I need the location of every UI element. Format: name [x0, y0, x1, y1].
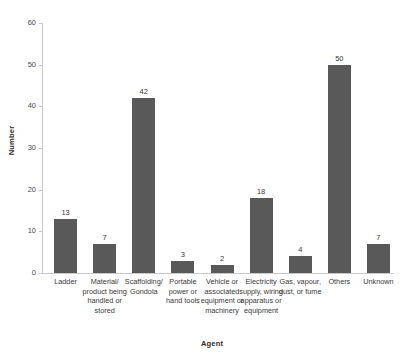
x-axis-title: Agent: [42, 339, 382, 348]
y-tick-mark: [39, 231, 42, 232]
bar: [250, 198, 273, 273]
bar: [328, 65, 351, 273]
bar: [289, 256, 312, 273]
y-tick-label-20: 20: [8, 185, 36, 195]
y-tick-label-50: 50: [8, 60, 36, 70]
bar-value-label: 7: [85, 233, 125, 242]
y-tick-mark: [39, 190, 42, 191]
y-tick-label-30: 30: [8, 143, 36, 153]
bar-value-label: 7: [358, 233, 398, 242]
y-tick-label-40: 40: [8, 101, 36, 111]
bar: [211, 265, 234, 273]
y-tick-mark: [39, 65, 42, 66]
bar-value-label: 50: [319, 54, 359, 63]
y-tick-mark: [39, 23, 42, 24]
y-tick-label-0: 0: [8, 268, 36, 278]
bar: [132, 98, 155, 273]
bar-value-label: 3: [163, 250, 203, 259]
y-tick-mark: [39, 148, 42, 149]
plot-area: 0102030405060 1374232184507: [42, 23, 394, 273]
y-tick-label-60: 60: [8, 18, 36, 28]
x-axis-line: [42, 273, 394, 274]
bar: [54, 219, 77, 273]
y-axis-line: [42, 23, 43, 273]
bar-value-label: 42: [124, 87, 164, 96]
bar-value-label: 4: [280, 245, 320, 254]
bar-chart: Number 0102030405060 1374232184507 Ladde…: [0, 0, 411, 364]
y-tick-mark: [39, 106, 42, 107]
bar: [367, 244, 390, 273]
bar: [93, 244, 116, 273]
y-axis-title: Number: [0, 0, 24, 280]
y-tick-label-10: 10: [8, 226, 36, 236]
x-category-label: Unknown: [355, 277, 401, 287]
bar: [171, 261, 194, 274]
bar-value-label: 2: [202, 254, 242, 263]
y-tick-mark: [39, 273, 42, 274]
bar-value-label: 13: [46, 208, 86, 217]
bar-value-label: 18: [241, 187, 281, 196]
